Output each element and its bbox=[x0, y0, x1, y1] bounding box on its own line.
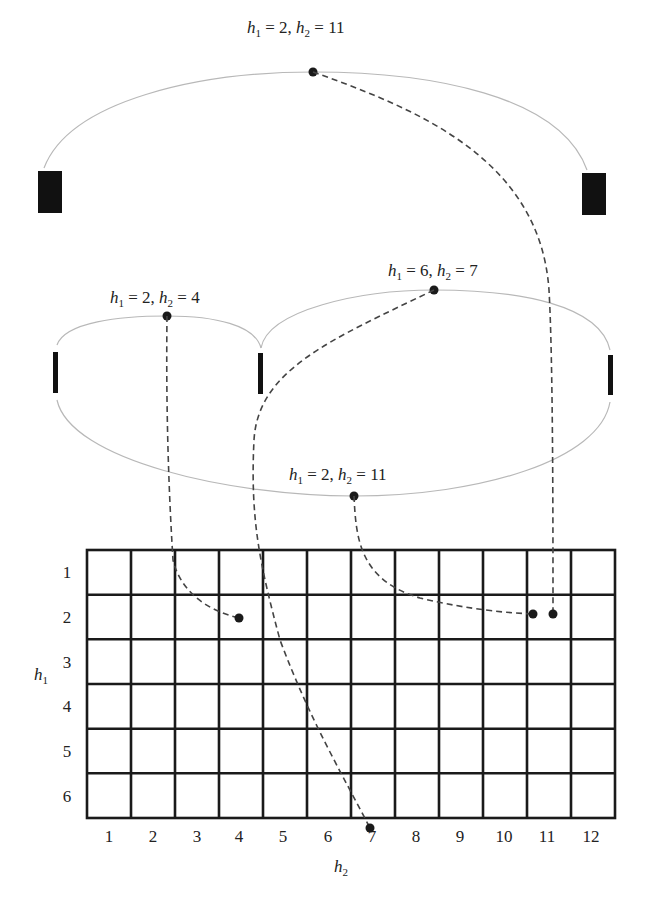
middle-leaf-left bbox=[53, 352, 58, 393]
middle-left-node-label: h1 = 2, h2 = 4 bbox=[110, 288, 200, 309]
top-tree: h1 = 2, h2 = 11 bbox=[38, 18, 606, 215]
diagram-canvas: h1 = 2, h2 = 11 h1 = 2, h2 = 4 h1 = 6, h… bbox=[0, 0, 646, 914]
grid-dot-h1-2-h2-11-b bbox=[549, 610, 558, 619]
row-label-2: 2 bbox=[63, 608, 72, 627]
col-label-1: 1 bbox=[105, 827, 114, 846]
row-label-3: 3 bbox=[63, 653, 72, 672]
y-axis-label: h1 bbox=[34, 665, 48, 686]
grid-dot-h1-6-h2-7 bbox=[366, 824, 375, 833]
col-label-2: 2 bbox=[149, 827, 158, 846]
mapping-middle-right-to-cell bbox=[253, 290, 434, 828]
row-label-5: 5 bbox=[63, 742, 72, 761]
middle-tree: h1 = 2, h2 = 4 h1 = 6, h2 = 7 h1 = 2, h2… bbox=[53, 261, 613, 501]
column-labels: 1 2 3 4 5 6 7 8 9 10 11 12 bbox=[105, 827, 600, 846]
col-label-5: 5 bbox=[279, 827, 288, 846]
col-label-12: 12 bbox=[583, 827, 600, 846]
mapping-middle-left-to-cell bbox=[167, 316, 239, 618]
h1-h2-grid bbox=[87, 550, 615, 818]
top-arc bbox=[44, 72, 587, 170]
row-label-4: 4 bbox=[63, 697, 72, 716]
col-label-8: 8 bbox=[412, 827, 421, 846]
middle-right-arc bbox=[261, 290, 610, 350]
mapping-top-to-cell bbox=[313, 72, 553, 614]
top-node-label: h1 = 2, h2 = 11 bbox=[247, 18, 345, 39]
row-label-6: 6 bbox=[63, 787, 72, 806]
middle-leaf-center bbox=[258, 353, 263, 394]
col-label-9: 9 bbox=[456, 827, 465, 846]
col-label-4: 4 bbox=[235, 827, 244, 846]
grid-dot-h1-2-h2-11-a bbox=[529, 610, 538, 619]
mapping-middle-bottom-to-cell bbox=[354, 496, 533, 614]
middle-leaf-right bbox=[608, 355, 613, 395]
mapping-lines bbox=[167, 72, 553, 828]
middle-bottom-node-label: h1 = 2, h2 = 11 bbox=[289, 465, 387, 486]
top-left-leaf bbox=[38, 171, 62, 213]
row-labels: 1 2 3 4 5 6 bbox=[63, 563, 72, 806]
x-axis-label: h2 bbox=[334, 857, 348, 878]
col-label-10: 10 bbox=[496, 827, 513, 846]
middle-right-node-label: h1 = 6, h2 = 7 bbox=[388, 261, 478, 282]
row-label-1: 1 bbox=[63, 563, 72, 582]
top-right-leaf bbox=[582, 173, 606, 215]
col-label-3: 3 bbox=[193, 827, 202, 846]
col-label-11: 11 bbox=[539, 827, 555, 846]
col-label-6: 6 bbox=[324, 827, 333, 846]
middle-left-arc bbox=[57, 316, 261, 348]
grid-dot-h1-2-h2-4 bbox=[235, 614, 244, 623]
